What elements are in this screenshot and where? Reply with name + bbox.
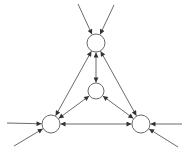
input-edge-top-1: [100, 5, 114, 34]
node-bottom-left: [42, 115, 60, 133]
node-bottom-right: [132, 115, 150, 133]
input-edge-bottom-right-5: [149, 129, 178, 147]
input-edge-bottom-left-3: [14, 129, 43, 146]
edges-layer: [7, 4, 182, 147]
node-top: [87, 34, 105, 52]
graph-diagram: [0, 0, 193, 158]
edge-center-bottom-right: [103, 96, 133, 118]
input-edge-top-0: [78, 4, 92, 34]
edge-top-bottom-right: [101, 51, 137, 115]
edge-center-bottom-left: [59, 96, 89, 118]
node-center: [88, 83, 104, 99]
nodes-layer: [42, 34, 150, 133]
input-edge-bottom-left-2: [7, 123, 42, 124]
edge-top-bottom-left: [56, 51, 92, 115]
